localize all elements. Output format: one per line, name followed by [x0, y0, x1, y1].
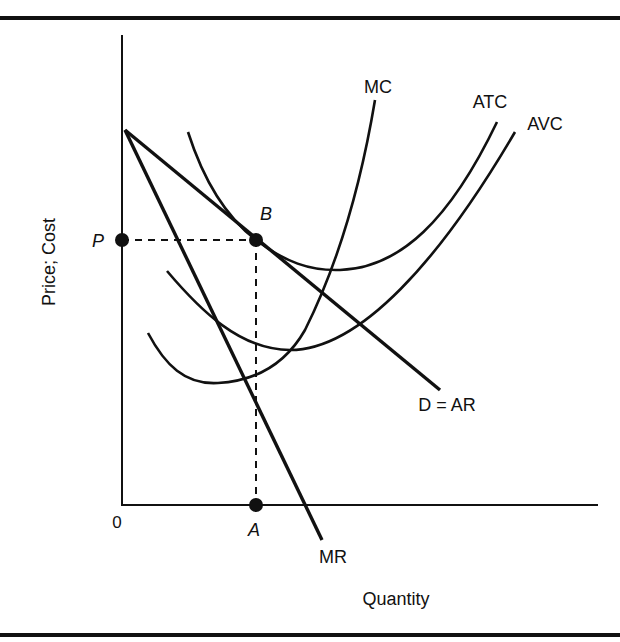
x-axis-label: Quantity [362, 589, 429, 609]
mr-curve [125, 130, 322, 540]
avc-label: AVC [527, 114, 563, 134]
chart: Price; Cost Quantity 0 MC ATC AVC D = AR… [0, 0, 620, 642]
point-b-marker [249, 233, 263, 247]
point-p-marker [115, 233, 129, 247]
mc-label: MC [364, 77, 392, 97]
y-axis-label: Price; Cost [39, 218, 59, 306]
demand-label: D = AR [418, 395, 476, 415]
mr-label: MR [319, 547, 347, 567]
atc-label: ATC [473, 92, 508, 112]
atc-curve [188, 122, 497, 270]
point-b-label: B [260, 204, 272, 224]
origin-label: 0 [112, 513, 121, 532]
point-p-label: P [92, 231, 104, 251]
point-a-marker [249, 498, 263, 512]
point-a-label: A [247, 520, 260, 540]
demand-curve [125, 130, 440, 390]
